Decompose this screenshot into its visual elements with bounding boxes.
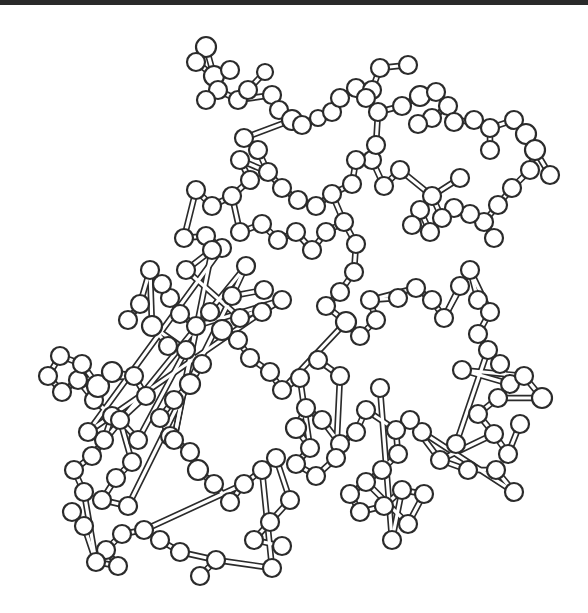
atom bbox=[197, 91, 215, 109]
atom bbox=[177, 261, 195, 279]
atom bbox=[119, 497, 137, 515]
atom bbox=[301, 439, 319, 457]
atom bbox=[273, 537, 291, 555]
atom bbox=[223, 287, 241, 305]
atom bbox=[93, 491, 111, 509]
atom bbox=[203, 241, 221, 259]
atom bbox=[393, 97, 411, 115]
atom bbox=[241, 349, 259, 367]
atom bbox=[87, 553, 105, 571]
atom bbox=[371, 59, 389, 77]
atom bbox=[273, 381, 291, 399]
atom bbox=[515, 367, 533, 385]
atom bbox=[39, 367, 57, 385]
atom bbox=[79, 423, 97, 441]
atom bbox=[267, 449, 285, 467]
atom bbox=[171, 543, 189, 561]
atom bbox=[245, 531, 263, 549]
atom bbox=[65, 461, 83, 479]
atom bbox=[347, 235, 365, 253]
atom bbox=[383, 531, 401, 549]
atom bbox=[447, 435, 465, 453]
atom bbox=[532, 388, 552, 408]
atom bbox=[135, 521, 153, 539]
atom bbox=[142, 316, 162, 336]
atom bbox=[491, 355, 509, 373]
atom bbox=[235, 475, 253, 493]
atom bbox=[489, 196, 507, 214]
atom bbox=[445, 113, 463, 131]
atom bbox=[481, 119, 499, 137]
atom bbox=[235, 129, 253, 147]
atom bbox=[423, 291, 441, 309]
atom bbox=[141, 261, 159, 279]
atom bbox=[345, 263, 363, 281]
atom bbox=[367, 311, 385, 329]
atom bbox=[341, 485, 359, 503]
atom bbox=[331, 283, 349, 301]
atom bbox=[75, 483, 93, 501]
atom bbox=[125, 367, 143, 385]
atom bbox=[389, 445, 407, 463]
atom bbox=[431, 451, 449, 469]
atom bbox=[113, 525, 131, 543]
ball-and-stick-model bbox=[0, 0, 588, 613]
atom bbox=[393, 481, 411, 499]
atom bbox=[123, 453, 141, 471]
atom bbox=[407, 279, 425, 297]
atom bbox=[289, 191, 307, 209]
atom bbox=[387, 421, 405, 439]
atom bbox=[273, 291, 291, 309]
atom bbox=[187, 53, 205, 71]
atom bbox=[331, 89, 349, 107]
atom bbox=[307, 467, 325, 485]
atom bbox=[286, 418, 306, 438]
atom bbox=[273, 179, 291, 197]
atom bbox=[137, 387, 155, 405]
atom bbox=[207, 551, 225, 569]
atom bbox=[291, 369, 309, 387]
atom bbox=[469, 325, 487, 343]
atom bbox=[351, 327, 369, 345]
atom bbox=[525, 140, 545, 160]
atom bbox=[165, 431, 183, 449]
atom bbox=[239, 81, 257, 99]
atom bbox=[375, 497, 393, 515]
atom bbox=[373, 461, 391, 479]
atom bbox=[255, 281, 273, 299]
atom bbox=[293, 116, 311, 134]
atom bbox=[257, 64, 273, 80]
atom bbox=[343, 175, 361, 193]
atom bbox=[119, 311, 137, 329]
atom bbox=[481, 141, 499, 159]
atom bbox=[53, 383, 71, 401]
atom bbox=[451, 277, 469, 295]
atom bbox=[203, 197, 221, 215]
atom bbox=[317, 297, 335, 315]
atom bbox=[263, 559, 281, 577]
atom bbox=[409, 115, 427, 133]
atom bbox=[375, 177, 393, 195]
atom bbox=[481, 303, 499, 321]
atom bbox=[187, 317, 205, 335]
atom bbox=[253, 215, 271, 233]
atom bbox=[231, 223, 249, 241]
atom bbox=[241, 171, 259, 189]
atom bbox=[361, 291, 379, 309]
atom bbox=[223, 187, 241, 205]
atom bbox=[317, 223, 335, 241]
atom bbox=[499, 445, 517, 463]
atom bbox=[165, 391, 183, 409]
atom bbox=[269, 231, 287, 249]
atom bbox=[159, 337, 177, 355]
atom bbox=[181, 443, 199, 461]
atom bbox=[191, 567, 209, 585]
atom bbox=[102, 362, 122, 382]
atom bbox=[521, 161, 539, 179]
atom bbox=[73, 355, 91, 373]
atom bbox=[151, 409, 169, 427]
atom bbox=[469, 405, 487, 423]
atom bbox=[367, 136, 385, 154]
atom bbox=[369, 103, 387, 121]
atom bbox=[485, 425, 503, 443]
